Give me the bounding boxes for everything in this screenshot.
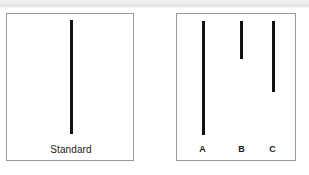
standard-line-label: Standard — [21, 145, 121, 155]
comparison-line-a — [202, 21, 205, 135]
comparison-line-b — [240, 21, 243, 59]
comparison-panel: A B C — [176, 13, 296, 161]
standard-panel: Standard — [6, 13, 134, 161]
figure-canvas: Standard A B C — [0, 0, 309, 175]
standard-line — [70, 20, 73, 134]
comparison-line-c-label: C — [253, 144, 292, 154]
comparison-line-a-label: A — [183, 144, 222, 154]
top-background-band — [0, 0, 309, 8]
comparison-line-c — [272, 21, 275, 92]
